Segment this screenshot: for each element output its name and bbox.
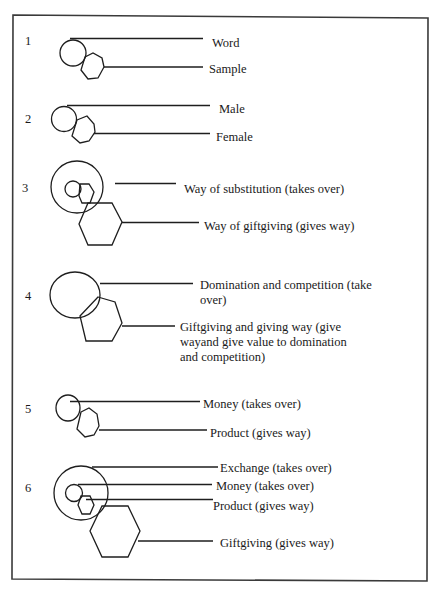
label-word: Word <box>212 36 240 50</box>
section-number: 5 <box>25 402 31 416</box>
section-1: 1 Word Sample <box>25 34 247 79</box>
section-6: 6 Exchange (takes over) Money (takes ove… <box>25 461 334 557</box>
diagram-canvas: 1 Word Sample 2 Male Female 3 Way of sub… <box>0 0 440 594</box>
label-giftgiving-and-giving-way: Giftgiving and giving way (give wayand g… <box>180 320 350 364</box>
section-3: 3 Way of substitution (takes over) Way o… <box>22 161 354 245</box>
outer-circle-icon <box>51 161 103 213</box>
circle-icon <box>56 395 80 421</box>
label-domination-and-competition: Domination and competition (take over) <box>200 278 375 307</box>
label-product: Product (gives way) <box>213 499 314 513</box>
section-number: 3 <box>22 181 28 195</box>
section-number: 6 <box>25 481 31 495</box>
section-4: 4 Domination and competition (take over)… <box>25 272 375 364</box>
section-number: 1 <box>25 34 31 48</box>
circle-icon <box>52 107 77 132</box>
hexagon-icon <box>72 116 95 143</box>
label-money: Money (takes over) <box>203 397 301 411</box>
section-number: 2 <box>25 112 31 126</box>
inner-hexagon-icon <box>78 496 94 514</box>
label-female: Female <box>216 130 253 144</box>
section-5: 5 Money (takes over) Product (gives way) <box>25 395 311 440</box>
circle-icon <box>50 272 100 318</box>
hexagon-icon <box>77 408 99 437</box>
label-way-of-substitution: Way of substitution (takes over) <box>184 182 344 196</box>
hexagon-icon <box>79 203 122 245</box>
label-way-of-giftgiving: Way of giftgiving (gives way) <box>204 219 354 233</box>
label-giftgiving: Giftgiving (gives way) <box>220 536 334 550</box>
hexagon-icon <box>80 297 122 341</box>
label-product: Product (gives way) <box>210 426 311 440</box>
label-sample: Sample <box>209 62 247 76</box>
label-money: Money (takes over) <box>216 479 314 493</box>
label-male: Male <box>219 102 245 116</box>
circle-icon <box>60 40 86 66</box>
label-exchange: Exchange (takes over) <box>220 461 332 475</box>
section-number: 4 <box>25 289 32 303</box>
section-2: 2 Male Female <box>25 102 253 144</box>
hexagon-icon <box>81 53 104 79</box>
